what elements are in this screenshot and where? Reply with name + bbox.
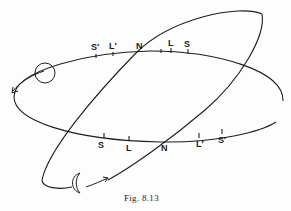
label-upper-s: S — [184, 39, 190, 49]
label-upper-l-prime: L′ — [109, 41, 117, 51]
label-upper-n: N — [136, 41, 143, 51]
figure-caption: Fig. 8.13 — [124, 193, 159, 203]
orbit-diagram: S′ L′ N L S S L N L′ S′ Fig. 8.13 — [0, 0, 291, 211]
orbit-direction-arrow-icon — [12, 71, 44, 93]
label-upper-s-prime: S′ — [91, 42, 99, 52]
label-lower-n: N — [161, 143, 168, 153]
diagram-figure: S′ L′ N L S S L N L′ S′ Fig. 8.13 — [0, 0, 291, 211]
label-lower-s-prime: S′ — [218, 135, 226, 145]
label-lower-s: S — [98, 140, 104, 150]
label-upper-l: L — [168, 38, 174, 48]
crescent-moon-icon — [73, 173, 81, 193]
label-lower-l: L — [126, 143, 132, 153]
orbit-direction-arrow-icon — [86, 177, 108, 187]
horizontal-orbit-ellipse — [14, 51, 283, 142]
label-lower-l-prime: L′ — [196, 139, 204, 149]
tilted-orbit-ellipse — [42, 11, 262, 188]
